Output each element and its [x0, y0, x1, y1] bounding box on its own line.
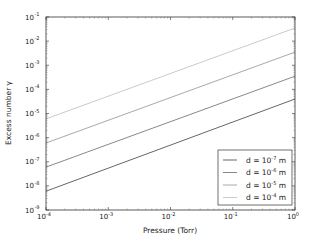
svg-text:-3: -3	[35, 59, 40, 65]
legend: d = 10-7 md = 10-6 md = 10-5 md = 10-4 m	[218, 150, 292, 205]
x-tick-label: 10-2	[162, 211, 176, 221]
svg-text:-2: -2	[35, 35, 40, 41]
y-tick-label: 10	[25, 207, 34, 215]
y-tick-label: 10	[25, 86, 34, 94]
x-tick-label: 10-4	[37, 211, 51, 221]
y-tick-label: 10	[25, 14, 34, 22]
legend-label: d = 10-4 m	[246, 192, 286, 202]
x-tick-label: 10-1	[224, 211, 238, 221]
chart: 10-410-310-210-1100 10-110-210-310-410-5…	[0, 0, 312, 240]
y-tick-label: 10	[25, 134, 34, 142]
series-line-4	[46, 28, 295, 119]
svg-text:-8: -8	[35, 180, 40, 186]
y-tick-label: 10	[25, 38, 34, 46]
svg-text:-5: -5	[35, 108, 40, 114]
legend-label: d = 10-7 m	[246, 155, 286, 165]
svg-text:-6: -6	[35, 132, 40, 138]
svg-text:-4: -4	[35, 83, 40, 89]
y-axis-label: Excess number γ	[4, 80, 13, 145]
x-axis-label: Pressure (Torr)	[143, 226, 197, 235]
svg-text:-1: -1	[35, 11, 40, 17]
series-line-3	[46, 52, 295, 143]
y-tick-label: 10	[25, 158, 34, 166]
svg-text:-9: -9	[35, 204, 40, 210]
legend-label: d = 10-6 m	[246, 167, 286, 177]
y-tick-label: 10	[25, 110, 34, 118]
x-tick-label: 10-3	[99, 211, 113, 221]
x-tick-label: 100	[287, 211, 299, 221]
y-tick-label: 10	[25, 182, 34, 190]
y-tick-label: 10	[25, 62, 34, 70]
svg-text:-7: -7	[35, 156, 40, 162]
legend-label: d = 10-5 m	[246, 180, 286, 190]
